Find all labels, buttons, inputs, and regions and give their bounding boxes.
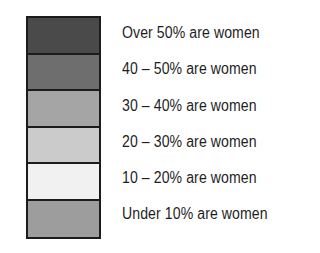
swatch-40-50 <box>28 55 99 92</box>
legend-label-30-40: 30 – 40% are women <box>122 89 268 125</box>
swatch-30-40 <box>28 91 99 128</box>
legend-label-20-30: 20 – 30% are women <box>122 125 268 161</box>
legend-labels: Over 50% are women 40 – 50% are women 30… <box>122 16 288 234</box>
swatch-under-10 <box>28 201 99 238</box>
swatch-over-50 <box>28 18 99 55</box>
legend-label-over-50: Over 50% are women <box>122 16 268 52</box>
swatch-10-20 <box>28 164 99 201</box>
legend-swatches <box>26 16 101 239</box>
swatch-20-30 <box>28 128 99 165</box>
legend-label-40-50: 40 – 50% are women <box>122 52 268 88</box>
legend-label-10-20: 10 – 20% are women <box>122 161 268 197</box>
legend-label-under-10: Under 10% are women <box>122 197 268 233</box>
